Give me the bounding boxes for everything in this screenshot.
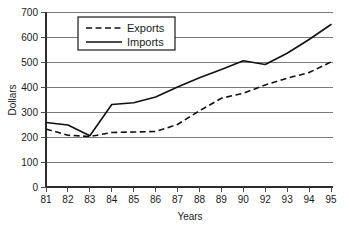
legend-label-imports: Imports [127,36,164,48]
y-tick-label: 300 [21,107,38,118]
x-tick-label: 90 [238,194,250,205]
y-tick-label: 100 [21,157,38,168]
x-tick-label: 81 [40,194,52,205]
x-tick-label: 83 [84,194,96,205]
y-tick-label: 0 [32,182,38,193]
y-tick-marks [41,12,46,187]
y-tick-label: 700 [21,7,38,18]
y-tick-label: 400 [21,82,38,93]
x-tick-marks [46,187,331,192]
x-tick-label: 85 [128,194,140,205]
y-tick-label: 200 [21,132,38,143]
x-tick-label: 95 [325,194,337,205]
legend-label-exports: Exports [127,22,165,34]
x-tick-label: 92 [260,194,272,205]
y-tick-label: 500 [21,57,38,68]
y-tick-label: 600 [21,32,38,43]
x-tick-label: 86 [150,194,162,205]
x-tick-label: 89 [216,194,228,205]
x-axis-title: Years [177,211,202,222]
line-chart: 0100200300400500600700 81828384858687888… [0,0,349,230]
series-line-exports [46,62,331,137]
x-tick-labels: 8182838485868788899092939495 [40,194,337,205]
chart-legend: Exports Imports [78,17,175,50]
x-tick-label: 88 [194,194,206,205]
x-tick-label: 93 [282,194,294,205]
x-tick-label: 87 [172,194,184,205]
x-tick-label: 84 [106,194,118,205]
y-tick-labels: 0100200300400500600700 [21,7,38,193]
x-tick-label: 94 [304,194,316,205]
x-tick-label: 82 [62,194,74,205]
chart-container: 0100200300400500600700 81828384858687888… [0,0,349,230]
y-axis-title: Dollars [7,84,18,115]
